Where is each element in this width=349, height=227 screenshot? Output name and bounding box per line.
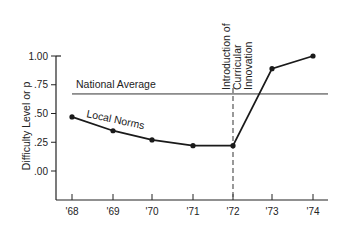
local-norms-label: Local Norms <box>86 107 146 131</box>
y-ticks: .00.25.50.751.00 <box>29 51 56 177</box>
y-tick-label: .00 <box>34 166 48 177</box>
y-tick-label: .50 <box>34 108 48 119</box>
x-tick-label: '73 <box>265 206 278 217</box>
x-tick-label: '69 <box>106 206 119 217</box>
x-ticks: '68'69'70'71'72'73'74 <box>65 194 319 217</box>
data-point <box>190 143 195 148</box>
y-tick-label: .75 <box>34 79 48 90</box>
local-norms-line <box>72 56 313 146</box>
data-point <box>269 66 274 71</box>
y-axis-label: Difficulty Level or p <box>20 82 32 171</box>
svg-text:Innovation: Innovation <box>242 41 254 90</box>
x-tick-label: '70 <box>145 206 158 217</box>
national-average-label: National Average <box>76 78 156 90</box>
data-point <box>69 114 74 119</box>
data-point <box>310 53 315 58</box>
x-tick-label: '74 <box>306 206 319 217</box>
data-point <box>110 128 115 133</box>
data-point <box>230 143 235 148</box>
innovation-label: Introduction of Curricular Innovation <box>220 23 254 90</box>
local-norms-points <box>69 53 315 148</box>
x-tick-label: '68 <box>65 206 78 217</box>
x-tick-label: '71 <box>186 206 199 217</box>
line-chart: .00.25.50.751.00 '68'69'70'71'72'73'74 D… <box>0 0 349 227</box>
data-point <box>149 137 154 142</box>
y-tick-label: .25 <box>34 137 48 148</box>
x-tick-label: '72 <box>226 206 239 217</box>
y-tick-label: 1.00 <box>29 51 49 62</box>
